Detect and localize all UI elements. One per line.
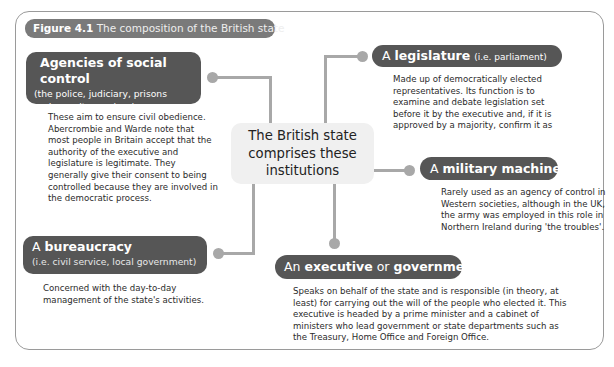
connector-dot-executive bbox=[329, 238, 340, 249]
military-description: Rarely used as an agency of control in W… bbox=[441, 187, 606, 233]
bureaucracy-description: Concerned with the day-to-day management… bbox=[43, 283, 213, 306]
connector-dot-agencies bbox=[207, 72, 218, 83]
central-node: The British state comprises these instit… bbox=[231, 123, 374, 184]
executive-title-1: executive bbox=[304, 259, 372, 274]
bureaucracy-heading: A bureaucracy bbox=[32, 239, 207, 255]
connector-agencies-v bbox=[269, 76, 272, 123]
executive-node: An executive or government bbox=[275, 255, 462, 279]
legislature-prefix: A bbox=[382, 48, 391, 63]
executive-description: Speaks on behalf of the state and is res… bbox=[293, 286, 568, 344]
military-title: military machine bbox=[443, 161, 561, 176]
connector-dot-military bbox=[404, 165, 415, 176]
agencies-title: Agencies of social control bbox=[34, 55, 201, 87]
bureaucracy-node: A bureaucracy (i.e. civil service, local… bbox=[23, 236, 207, 274]
connector-executive-v bbox=[333, 184, 336, 242]
connector-legislature-v bbox=[324, 55, 327, 123]
bureaucracy-subtitle: (i.e. civil service, local government) bbox=[32, 255, 207, 269]
center-line-3: institutions bbox=[231, 162, 374, 180]
center-line-2: comprises these bbox=[231, 145, 374, 163]
legislature-description: Made up of democratically elected repres… bbox=[393, 74, 555, 132]
agencies-subtitle-1: (the police, judiciary, prisons bbox=[34, 87, 201, 100]
military-node: A military machine bbox=[420, 157, 558, 180]
executive-prefix: An bbox=[284, 259, 300, 274]
connector-agencies-h bbox=[216, 76, 272, 79]
executive-title-2: government bbox=[393, 259, 479, 274]
legislature-title: legislature bbox=[395, 48, 471, 63]
figure-caption: The composition of the British state bbox=[97, 22, 285, 34]
figure-label: Figure 4.1 bbox=[33, 22, 93, 34]
connector-bureaucracy-h bbox=[219, 252, 255, 255]
connector-dot-legislature bbox=[357, 51, 368, 62]
figure-title: Figure 4.1 The composition of the Britis… bbox=[25, 19, 275, 38]
connector-bureaucracy-v bbox=[252, 184, 255, 255]
center-line-1: The British state bbox=[231, 127, 374, 145]
executive-conjunction: or bbox=[377, 259, 390, 274]
agencies-description: These aim to ensure civil obedience. Abe… bbox=[48, 112, 218, 205]
agencies-node: Agencies of social control (the police, … bbox=[26, 52, 201, 104]
bureaucracy-title: bureaucracy bbox=[45, 239, 132, 254]
military-prefix: A bbox=[430, 161, 439, 176]
bureaucracy-prefix: A bbox=[32, 239, 41, 254]
legislature-node: A legislature (i.e. parliament) bbox=[372, 45, 562, 67]
legislature-suffix: (i.e. parliament) bbox=[474, 52, 547, 62]
connector-dot-bureaucracy bbox=[213, 248, 224, 259]
